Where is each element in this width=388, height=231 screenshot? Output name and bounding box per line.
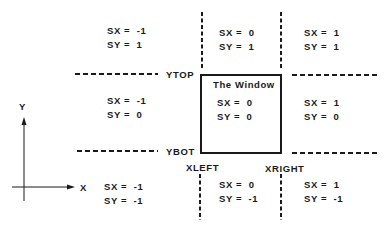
- window-title: The Window: [213, 79, 275, 91]
- region-top-center: SX = 0 SY = 1: [219, 26, 255, 54]
- sy-value: SY = -1: [104, 194, 143, 208]
- region-mid-left: SX = -1 SY = 0: [107, 94, 146, 122]
- xleft-label: XLEFT: [186, 162, 219, 174]
- sx-value: SX = 0: [217, 96, 253, 110]
- y-axis-label: Y: [19, 101, 26, 113]
- ybot-label: YBOT: [166, 146, 195, 158]
- region-bottom-center: SX = 0 SY = -1: [219, 178, 258, 206]
- clipping-regions-diagram: Y X YTOP YBOT XLEFT XRIGHT The Window SX…: [0, 0, 388, 231]
- sx-value: SX = 1: [304, 26, 340, 40]
- sx-value: SX = 0: [219, 26, 255, 40]
- xright-label: XRIGHT: [265, 163, 305, 175]
- region-mid-center: SX = 0 SY = 0: [217, 96, 253, 124]
- region-bottom-right: SX = 1 SY = -1: [304, 178, 343, 206]
- sx-value: SX = -1: [104, 180, 143, 194]
- x-axis-arrow-icon: [67, 185, 75, 190]
- sy-value: SY = 1: [107, 38, 146, 52]
- sx-value: SX = -1: [107, 94, 146, 108]
- sx-value: SX = 1: [304, 96, 340, 110]
- region-top-right: SX = 1 SY = 1: [304, 26, 340, 54]
- region-mid-right: SX = 1 SY = 0: [304, 96, 340, 124]
- region-top-left: SX = -1 SY = 1: [107, 24, 146, 52]
- sy-value: SY = 1: [304, 40, 340, 54]
- sy-value: SY = 0: [304, 110, 340, 124]
- sy-value: SY = -1: [304, 192, 343, 206]
- sy-value: SY = 0: [107, 108, 146, 122]
- sx-value: SX = 1: [304, 178, 343, 192]
- ytop-label: YTOP: [166, 69, 194, 81]
- region-bottom-left: SX = -1 SY = -1: [104, 180, 143, 208]
- sx-value: SX = 0: [219, 178, 258, 192]
- y-axis-arrow-icon: [22, 117, 27, 125]
- sy-value: SY = 0: [217, 110, 253, 124]
- x-axis-label: X: [80, 182, 87, 194]
- sy-value: SY = -1: [219, 192, 258, 206]
- sy-value: SY = 1: [219, 40, 255, 54]
- sx-value: SX = -1: [107, 24, 146, 38]
